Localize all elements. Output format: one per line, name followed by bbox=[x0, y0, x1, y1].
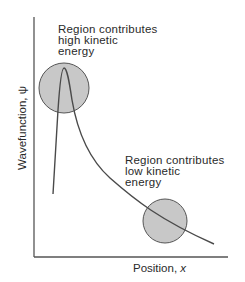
high-kinetic-annotation: Region contributes high kinetic energy bbox=[58, 24, 158, 57]
annotation-line: energy bbox=[58, 46, 158, 57]
annotation-line: energy bbox=[125, 177, 225, 188]
x-axis-label: Position, x bbox=[133, 262, 186, 274]
x-axis-label-text: Position, bbox=[133, 262, 180, 274]
low-kinetic-region-circle bbox=[143, 199, 187, 243]
low-kinetic-annotation: Region contributes low kinetic energy bbox=[125, 155, 225, 188]
high-kinetic-region-circle bbox=[39, 63, 89, 113]
y-axis-label: Wavefunction, ψ bbox=[16, 58, 30, 198]
x-axis-variable: x bbox=[180, 262, 186, 274]
